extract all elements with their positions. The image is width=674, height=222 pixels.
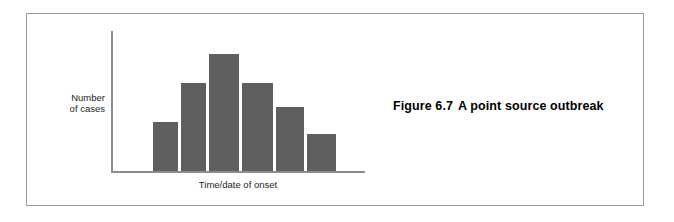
- figure-frame-border: Number of cases Time/date of onset Figur…: [26, 13, 644, 206]
- bar-1: [153, 122, 178, 171]
- figure-caption: Figure 6.7A point source outbreak: [393, 99, 604, 113]
- bar-6: [307, 134, 336, 171]
- x-axis-label: Time/date of onset: [111, 179, 365, 191]
- bar-5: [276, 107, 304, 171]
- y-axis-label-line-1: Number: [53, 92, 105, 103]
- bars-group: [111, 31, 365, 172]
- epidemic-curve-chart: Number of cases Time/date of onset: [111, 31, 371, 191]
- bar-2: [181, 83, 206, 171]
- bar-4: [242, 83, 273, 171]
- y-axis-label: Number of cases: [53, 92, 105, 114]
- bar-3: [209, 54, 239, 171]
- y-axis-label-line-2: of cases: [53, 103, 105, 114]
- figure-caption-number: Figure 6.7: [393, 99, 453, 113]
- figure-root: Number of cases Time/date of onset Figur…: [0, 0, 674, 222]
- figure-caption-title: A point source outbreak: [458, 99, 604, 113]
